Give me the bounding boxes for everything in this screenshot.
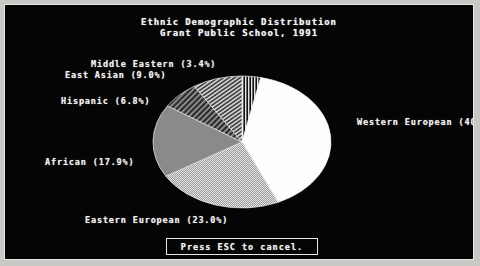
pie-slices [153, 76, 331, 208]
slice-label-hispanic: Hispanic (6.8%) [61, 96, 151, 106]
press-esc-to-cancel-button[interactable]: Press ESC to cancel. [166, 238, 318, 255]
pie-chart: Middle Eastern (3.4%) East Asian (9.0%) … [5, 5, 474, 260]
slice-label-african: African (17.9%) [45, 157, 135, 167]
slice-label-western-european: Western European (40 [357, 117, 474, 127]
slice-label-middle-eastern: Middle Eastern (3.4%) [91, 59, 216, 69]
pie-chart-svg [5, 5, 474, 260]
slice-label-eastern-european: Eastern European (23.0%) [85, 215, 228, 225]
slice-label-east-asian: East Asian (9.0%) [65, 70, 166, 80]
dos-chart-screen: Ethnic Demographic Distribution Grant Pu… [4, 4, 474, 260]
